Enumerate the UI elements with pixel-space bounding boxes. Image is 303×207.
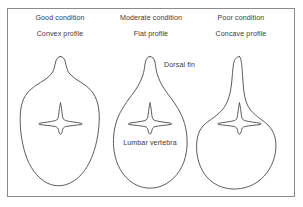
- lumbar-vertebra-annotation: Lumbar vertebra: [123, 140, 177, 147]
- panel-profile-label-moderate: Flat profile: [134, 31, 168, 38]
- panel-condition-label-poor: Poor condition: [218, 15, 265, 22]
- panel-condition-label-good: Good condition: [35, 15, 84, 22]
- body-condition-score-diagram: Good condition Convex profile Moderate c…: [0, 0, 303, 207]
- panel-profile-label-good: Convex profile: [37, 31, 84, 38]
- panel-condition-label-moderate: Moderate condition: [120, 15, 182, 22]
- panel-profile-label-poor: Concave profile: [216, 31, 267, 38]
- dorsal-fin-annotation: Dorsal fin: [164, 62, 195, 69]
